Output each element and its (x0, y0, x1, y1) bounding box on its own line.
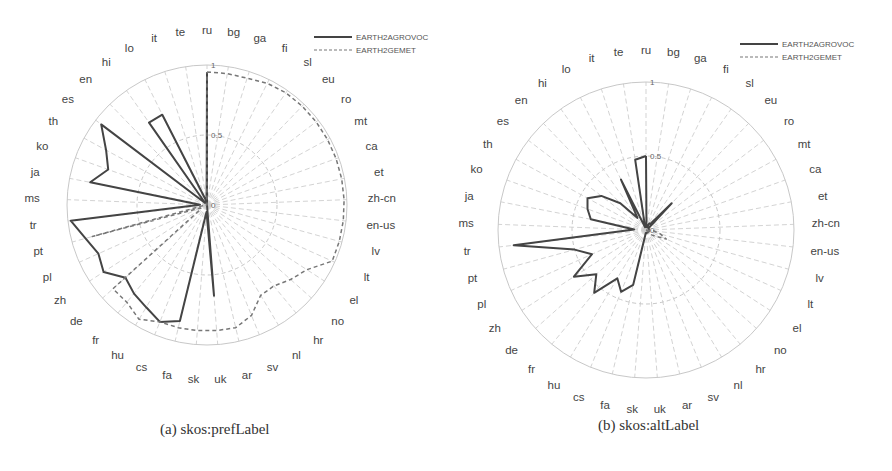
grid-spoke (591, 230, 646, 367)
category-label: th (48, 115, 58, 127)
category-label: et (818, 190, 828, 202)
category-label: ga (253, 32, 266, 44)
category-label: uk (654, 403, 666, 415)
category-label: bg (667, 46, 680, 58)
category-label: cs (136, 361, 148, 373)
category-label: en-us (366, 219, 395, 231)
category-label: tr (464, 245, 471, 257)
category-label: hu (548, 379, 561, 391)
category-label: sl (745, 77, 753, 89)
category-label: ga (694, 52, 707, 64)
category-label: sl (304, 56, 312, 68)
category-label: pl (43, 271, 52, 283)
category-label: lo (562, 63, 571, 75)
grid-spoke (646, 180, 785, 230)
category-label: ca (366, 140, 379, 152)
category-label: ja (30, 166, 41, 178)
r-tick-label: 1 (650, 78, 655, 87)
grid-spoke (646, 230, 740, 344)
category-label: it (589, 52, 596, 64)
caption-a: (a) skos:prefLabel (160, 421, 270, 438)
series-earth2agrovoc (514, 156, 672, 293)
category-label: nl (734, 379, 743, 391)
category-label: fi (723, 63, 729, 75)
r-tick-label: 0.5 (211, 131, 223, 140)
category-label: eu (322, 73, 335, 85)
grid-spoke (207, 178, 344, 205)
category-label: lv (815, 272, 824, 284)
category-label: pl (477, 298, 486, 310)
category-label: cs (573, 391, 585, 403)
category-label: ar (682, 399, 692, 411)
category-label: fi (282, 42, 288, 54)
grid-spoke (646, 140, 764, 230)
panel-a-preflabel: 00.51rubggafisleuromtcaetzh-cnen-uslvlte… (0, 0, 446, 471)
category-label: lv (372, 245, 381, 257)
category-label: zh (489, 322, 501, 334)
category-label: bg (227, 26, 240, 38)
category-label: es (62, 93, 74, 105)
panel-b-altlabel: 00.51rubggafisleuromtcaetzh-cnen-uslvlte… (446, 0, 892, 471)
category-label: ja (464, 190, 475, 202)
category-label: th (483, 138, 493, 150)
grid-spoke (543, 123, 646, 230)
legend-label-gemet: EARTH2GEMET (356, 46, 416, 55)
category-label: lo (125, 42, 134, 54)
category-label: de (70, 315, 83, 327)
category-label: zh-cn (812, 217, 840, 229)
category-label: pt (468, 272, 478, 284)
category-label: ro (784, 115, 794, 127)
category-label: fr (92, 334, 99, 346)
caption-b: (b) skos:altLabel (598, 417, 699, 434)
category-label: en-us (810, 245, 839, 257)
category-label: hu (111, 349, 124, 361)
category-label: fr (528, 363, 535, 375)
category-label: es (497, 115, 509, 127)
category-label: tr (30, 219, 37, 231)
category-label: lt (364, 271, 371, 283)
category-label: hi (102, 56, 111, 68)
grid-spoke (601, 89, 646, 230)
r-tick-label: 1 (211, 61, 216, 70)
category-label: hr (313, 334, 323, 346)
category-label: ms (24, 192, 40, 204)
category-label: it (151, 32, 158, 44)
grid-spoke (646, 230, 722, 357)
category-label: el (349, 294, 358, 306)
radar-chart-preflabel: 00.51rubggafisleuromtcaetzh-cnen-uslvlte… (0, 0, 446, 471)
category-label: pt (33, 245, 43, 257)
category-label: ar (242, 369, 252, 381)
category-label: en (79, 73, 92, 85)
category-label: sv (708, 391, 720, 403)
category-label: hr (755, 363, 765, 375)
category-label: te (614, 46, 624, 58)
category-label: ko (36, 140, 48, 152)
category-label: ko (471, 163, 483, 175)
category-label: mt (798, 138, 812, 150)
category-label: eu (764, 94, 777, 106)
grid-spoke (561, 109, 646, 230)
radar-chart-altlabel: 00.51rubggafisleuromtcaetzh-cnen-uslvlte… (446, 0, 892, 471)
category-label: lt (807, 298, 814, 310)
grid-spoke (646, 230, 789, 269)
category-label: ro (341, 93, 351, 105)
category-label: sk (626, 403, 638, 415)
grid-spoke (207, 104, 304, 205)
category-label: no (774, 344, 787, 356)
category-label: hi (538, 77, 547, 89)
legend-label-agrovoc: EARTH2AGROVOC (782, 40, 855, 49)
grid-spoke (511, 230, 646, 291)
grid-spoke (207, 205, 296, 313)
category-label: zh (54, 294, 66, 306)
category-label: nl (292, 349, 301, 361)
category-label: ms (458, 217, 474, 229)
legend-label-agrovoc: EARTH2AGROVOC (356, 33, 429, 42)
category-label: zh-cn (368, 192, 396, 204)
grid-spoke (646, 159, 776, 230)
grid-spoke (552, 230, 646, 344)
grid-spoke (528, 140, 646, 230)
grid-spoke (646, 109, 731, 230)
grid-spoke (207, 138, 330, 205)
r-tick-label: 0 (211, 201, 216, 210)
category-label: sk (188, 373, 200, 385)
